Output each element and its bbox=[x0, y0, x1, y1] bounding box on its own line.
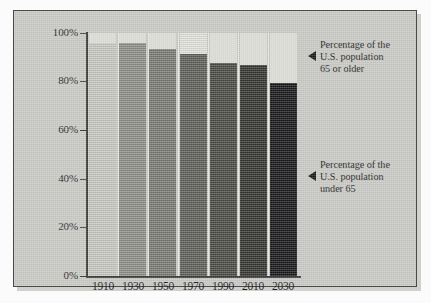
y-tick-label-80-wrap: 80% bbox=[36, 75, 78, 86]
bar-1930[interactable] bbox=[119, 33, 146, 276]
bar-segment-65-or-older-2030 bbox=[270, 33, 297, 83]
bar-segment-65-or-older-1990 bbox=[210, 33, 237, 63]
annotation-over-65-line2: U.S. population bbox=[320, 51, 390, 63]
annotation-under-65: Percentage of the U.S. population under … bbox=[320, 159, 390, 196]
bar-segment-under-65-1950 bbox=[149, 49, 176, 276]
bar-segment-under-65-1970 bbox=[180, 54, 207, 276]
annotation-over-65: Percentage of the U.S. population 65 or … bbox=[320, 39, 390, 76]
y-tick-60 bbox=[80, 130, 87, 131]
bar-segment-65-or-older-1910 bbox=[89, 33, 116, 43]
bar-segment-under-65-2030 bbox=[270, 83, 297, 276]
bar-segment-65-or-older-1930 bbox=[119, 33, 146, 43]
x-axis-line bbox=[86, 276, 301, 278]
bar-segment-under-65-1990 bbox=[210, 63, 237, 276]
figure-root: 100% 80% 60% 40% 20% 0% bbox=[0, 0, 431, 303]
figure-frame: 100% 80% 60% 40% 20% 0% bbox=[13, 10, 417, 287]
bar-1910[interactable] bbox=[89, 33, 116, 276]
y-tick-label-40: 40% bbox=[36, 173, 78, 184]
x-tick-label-1970: 1970 bbox=[178, 280, 208, 293]
x-tick-label-1950: 1950 bbox=[148, 280, 178, 293]
y-tick-40 bbox=[80, 179, 87, 180]
column-separator bbox=[268, 33, 269, 276]
y-tick-label-20-wrap: 20% bbox=[36, 221, 78, 232]
x-tick-label-2010: 2010 bbox=[238, 280, 268, 293]
annotation-under-65-line2: U.S. population bbox=[320, 171, 390, 183]
y-tick-20 bbox=[80, 227, 87, 228]
y-tick-label-60-wrap: 60% bbox=[36, 124, 78, 135]
bar-1950[interactable] bbox=[149, 33, 176, 276]
bar-1970[interactable] bbox=[180, 33, 207, 276]
bar-2030[interactable] bbox=[270, 33, 297, 276]
y-tick-label-100: 100% bbox=[36, 27, 78, 38]
bar-2010[interactable] bbox=[240, 33, 267, 276]
x-tick-label-1910: 1910 bbox=[88, 280, 118, 293]
x-tick-label-1990: 1990 bbox=[208, 280, 238, 293]
y-tick-label-20: 20% bbox=[36, 221, 78, 232]
bar-1990[interactable] bbox=[210, 33, 237, 276]
y-tick-label-40-wrap: 40% bbox=[36, 173, 78, 184]
bar-segment-65-or-older-2010 bbox=[240, 33, 267, 65]
left-triangle-icon bbox=[308, 171, 316, 181]
y-tick-label-100-wrap: 100% bbox=[36, 27, 78, 38]
bar-segment-under-65-1910 bbox=[89, 43, 116, 276]
y-tick-80 bbox=[80, 81, 87, 82]
y-tick-label-80: 80% bbox=[36, 75, 78, 86]
y-tick-label-0: 0% bbox=[36, 270, 78, 281]
bar-segment-65-or-older-1950 bbox=[149, 33, 176, 49]
annotation-under-65-line1: Percentage of the bbox=[320, 159, 390, 171]
y-tick-0 bbox=[80, 276, 87, 277]
y-tick-label-0-wrap: 0% bbox=[36, 270, 78, 281]
column-separator bbox=[238, 33, 239, 276]
x-tick-label-2030: 2030 bbox=[268, 280, 298, 293]
plot-area bbox=[88, 33, 299, 276]
annotation-over-65-line1: Percentage of the bbox=[320, 39, 390, 51]
x-tick-label-1930: 1930 bbox=[118, 280, 148, 293]
bar-segment-under-65-1930 bbox=[119, 43, 146, 276]
y-tick-label-60: 60% bbox=[36, 124, 78, 135]
annotation-under-65-line3: under 65 bbox=[320, 183, 390, 195]
bar-segment-under-65-2010 bbox=[240, 65, 267, 276]
y-tick-100 bbox=[80, 33, 87, 34]
left-triangle-icon bbox=[308, 51, 316, 61]
annotation-over-65-line3: 65 or older bbox=[320, 63, 390, 75]
bar-segment-65-or-older-1970 bbox=[180, 33, 207, 54]
